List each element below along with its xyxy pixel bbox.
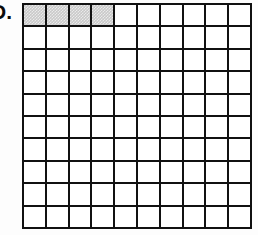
grid-cell [115,95,136,115]
grid-cell [70,50,91,70]
grid-cell [161,5,182,25]
answer-choice-label: D. [0,0,19,26]
grid-cell [161,27,182,47]
grid-cell [24,27,45,47]
grid-cell [184,50,205,70]
grid-cell [70,27,91,47]
grid-cell [92,162,113,182]
grid-cell [229,27,250,47]
grid-cell [24,162,45,182]
grid-cell [24,117,45,137]
grid-cell [47,139,68,159]
grid-cell [184,5,205,25]
grid-cell [70,95,91,115]
grid-cell [206,5,227,25]
grid-cell [92,207,113,227]
grid-cell [206,184,227,204]
grid-cell [24,72,45,92]
grid-cell [115,139,136,159]
grid-cell [92,27,113,47]
grid-cell [115,207,136,227]
grid-cell [24,139,45,159]
grid-cell [24,207,45,227]
grid-cell [161,72,182,92]
grid-cell [184,72,205,92]
grid-cell [70,139,91,159]
figure-root: D. [0,0,258,235]
grid-cell [184,139,205,159]
grid-cell [161,207,182,227]
grid-cell [229,162,250,182]
grid-cell [229,50,250,70]
grid-cell [24,50,45,70]
grid-cell [47,27,68,47]
grid-cell [115,184,136,204]
grid-cell [229,5,250,25]
grid-cell [138,27,159,47]
grid-cell [206,139,227,159]
hundredths-grid [22,3,252,229]
hundredths-grid-wrapper [22,3,252,229]
grid-cell [161,95,182,115]
grid-cell [47,117,68,137]
grid-cell [47,207,68,227]
grid-cell [92,72,113,92]
grid-cell [206,72,227,92]
grid-cell [161,117,182,137]
grid-cell [115,117,136,137]
grid-cell [138,162,159,182]
grid-cell [24,95,45,115]
grid-cell [92,184,113,204]
grid-cell [138,139,159,159]
grid-cell [229,207,250,227]
grid-cell [184,207,205,227]
grid-cell [161,162,182,182]
grid-cell [206,117,227,137]
grid-cell [184,117,205,137]
grid-cell [229,184,250,204]
grid-cell [206,50,227,70]
grid-cell-shaded [70,5,91,25]
grid-cell [92,95,113,115]
grid-cell [70,117,91,137]
grid-cell-shaded [92,5,113,25]
grid-cell [161,184,182,204]
grid-cell [206,95,227,115]
grid-cell [229,95,250,115]
grid-cell [115,50,136,70]
grid-cell [92,50,113,70]
grid-cell [70,207,91,227]
grid-cell [24,184,45,204]
grid-cell [138,95,159,115]
grid-cell [206,207,227,227]
grid-cell [229,72,250,92]
grid-cell [92,117,113,137]
grid-cell [138,117,159,137]
grid-cell [229,139,250,159]
grid-cell [206,162,227,182]
grid-cell [47,184,68,204]
grid-cell [70,72,91,92]
grid-cell [138,207,159,227]
grid-cell [184,162,205,182]
grid-cell [115,27,136,47]
grid-cell [138,72,159,92]
grid-cell [115,162,136,182]
grid-cell [47,162,68,182]
grid-cell [184,95,205,115]
grid-cell [47,95,68,115]
grid-cell [161,50,182,70]
grid-cell [184,27,205,47]
grid-cell [138,184,159,204]
grid-cell-shaded [24,5,45,25]
grid-cell [229,117,250,137]
grid-cell [138,5,159,25]
grid-cell [47,50,68,70]
grid-cell [206,27,227,47]
grid-cell [70,184,91,204]
grid-cell [47,72,68,92]
grid-cell [115,72,136,92]
grid-cell [92,139,113,159]
grid-cell [70,162,91,182]
grid-cell-shaded [47,5,68,25]
